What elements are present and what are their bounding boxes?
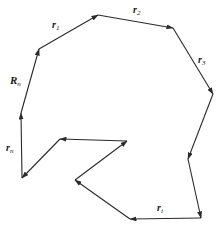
vector-r10	[22, 139, 60, 178]
vector-Rn	[21, 49, 39, 113]
label-r3: r3	[198, 54, 206, 67]
vector-r5	[188, 159, 201, 218]
label-r1: r1	[52, 19, 59, 32]
label-rn: rn	[6, 142, 14, 155]
vector-r9	[60, 139, 127, 141]
vector-r8	[75, 141, 127, 180]
vector-rn	[21, 113, 22, 178]
label-ri: ri	[157, 202, 163, 215]
vector-arrows	[21, 15, 213, 219]
vector-ri	[130, 218, 201, 219]
vector-r7	[75, 180, 130, 219]
vector-r2	[98, 15, 173, 28]
vector-r3	[173, 28, 213, 94]
vector-polygon-diagram: Rn r1 r2 r3 rn ri	[0, 0, 220, 228]
vector-r1	[39, 15, 98, 49]
label-Rn: Rn	[9, 74, 21, 88]
vector-r4	[188, 94, 213, 159]
label-r2: r2	[133, 4, 141, 17]
